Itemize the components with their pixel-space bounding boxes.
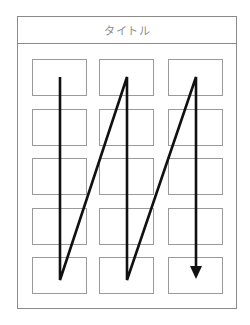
grid-cell-r5-c1 — [32, 257, 87, 294]
page-title: タイトル — [104, 22, 150, 38]
grid-cell-r2-c1 — [32, 109, 87, 146]
grid-cell-r2-c2 — [99, 109, 154, 146]
grid-cell-r3-c1 — [32, 158, 87, 195]
grid-cell-r3-c3 — [168, 158, 223, 195]
grid-cell-r3-c2 — [99, 158, 154, 195]
grid-cell-r1-c1 — [32, 59, 87, 96]
grid-cell-r4-c2 — [99, 208, 154, 245]
grid-cell-r5-c3 — [168, 257, 223, 294]
grid-cell-r2-c3 — [168, 109, 223, 146]
grid-cell-r1-c3 — [168, 59, 223, 96]
grid-cell-r5-c2 — [99, 257, 154, 294]
grid-cell-r4-c3 — [168, 208, 223, 245]
header-bar: タイトル — [18, 17, 236, 44]
grid-cell-r1-c2 — [99, 59, 154, 96]
grid-cell-r4-c1 — [32, 208, 87, 245]
